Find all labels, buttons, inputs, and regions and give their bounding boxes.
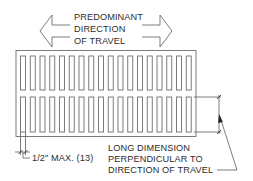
slot-spacing-label: 1/2" MAX. (13) — [32, 153, 93, 163]
grate-slot — [128, 56, 133, 90]
grate-slot — [21, 97, 26, 132]
grate-slot — [50, 56, 55, 90]
grate-slot — [177, 97, 182, 132]
slot-spacing-dimension — [15, 132, 30, 158]
grate-slot — [108, 56, 113, 90]
grate-slot — [118, 56, 123, 90]
orientation-note-line-1: LONG DIMENSION — [108, 143, 190, 153]
grate-slot — [79, 97, 84, 132]
grate-slot — [167, 56, 172, 90]
grate-slot — [40, 56, 45, 90]
orientation-note: LONG DIMENSION PERPENDICULAR TO DIRECTIO… — [108, 143, 213, 175]
grate-slot — [128, 97, 133, 132]
grate-opening-diagram: PREDOMINANT DIRECTION OF TRAVEL 1/2" MAX… — [0, 0, 253, 181]
grate-slot — [138, 97, 143, 132]
grate-slot — [79, 56, 84, 90]
grate-slot — [177, 56, 182, 90]
orientation-note-line-2: PERPENDICULAR TO — [108, 154, 203, 164]
grate-slot — [186, 97, 191, 132]
grate-slot — [69, 56, 74, 90]
grate-slot — [21, 56, 26, 90]
grate-slot — [69, 97, 74, 132]
grate-slot — [89, 97, 94, 132]
grate-slot — [167, 97, 172, 132]
grate-slot — [40, 97, 45, 132]
grate-slot — [60, 97, 65, 132]
grate-slot — [30, 97, 35, 132]
slot-length-dimension — [194, 95, 221, 134]
direction-label-line-3: OF TRAVEL — [74, 36, 125, 46]
direction-of-travel-label: PREDOMINANT DIRECTION OF TRAVEL — [74, 12, 143, 46]
direction-label-line-1: PREDOMINANT — [74, 12, 143, 22]
grate-slot — [186, 56, 191, 90]
grate-slot — [138, 56, 143, 90]
grate-slot — [157, 56, 162, 90]
grate-slot — [60, 56, 65, 90]
grate-slot — [89, 56, 94, 90]
orientation-note-line-3: DIRECTION OF TRAVEL — [108, 165, 213, 175]
grate-outline — [16, 51, 196, 137]
grate-slot-row-2 — [21, 97, 192, 132]
grate-slot — [118, 97, 123, 132]
grate-slot — [108, 97, 113, 132]
note-leader-arrow — [217, 114, 237, 170]
grate-slot — [99, 56, 104, 90]
grate-slot — [147, 97, 152, 132]
direction-label-line-2: DIRECTION — [74, 24, 125, 34]
grate-slot — [157, 97, 162, 132]
grate-slot-row-1 — [21, 56, 192, 90]
grate-slot — [50, 97, 55, 132]
grate-slot — [30, 56, 35, 90]
grate-slot — [147, 56, 152, 90]
grate-slot — [99, 97, 104, 132]
